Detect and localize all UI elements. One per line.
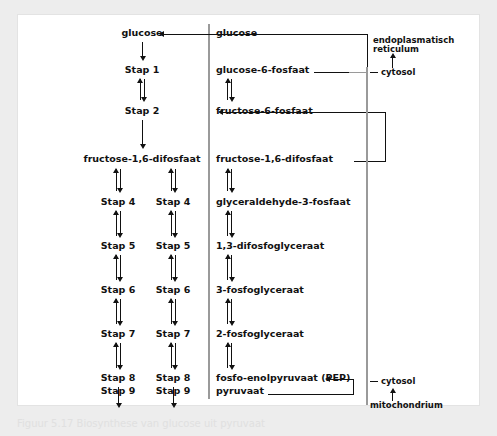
left-step-4-b: Stap 4 xyxy=(156,196,191,207)
left-step-7-a: Stap 7 xyxy=(101,328,136,339)
left-step-2: Stap 2 xyxy=(125,105,160,116)
left-step-9-a: Stap 9 xyxy=(101,385,136,396)
right-node-2-fosfoglyceraat: 2-fosfoglyceraat xyxy=(216,328,304,339)
right-node-glucose: glucose xyxy=(216,27,257,38)
left-step-8-b: Stap 8 xyxy=(156,372,191,383)
right-node-pyruvaat: pyruvaat xyxy=(216,385,264,396)
right-node-fructose-1-6-difosfaat: fructose-1,6-difosfaat xyxy=(216,153,333,164)
left-step-5-b: Stap 5 xyxy=(156,240,191,251)
right-node-1-3-difosfoglyceraat: 1,3-difosfoglyceraat xyxy=(216,240,324,251)
left-step-9-b: Stap 9 xyxy=(156,385,191,396)
right-node-3-fosfoglyceraat: 3-fosfoglyceraat xyxy=(216,284,304,295)
figure-panel: glucose Stap 1 Stap 2 fructose-1,6-difos… xyxy=(17,14,480,406)
left-step-5-a: Stap 5 xyxy=(101,240,136,251)
label-endoplasmatisch-reticulum-line2: reticulum xyxy=(373,44,419,54)
left-step-1: Stap 1 xyxy=(125,64,160,75)
cell-boundary-line-left xyxy=(208,24,210,399)
left-node-fructose-1-6-difosfaat: fructose-1,6-difosfaat xyxy=(84,153,201,164)
label-mitochondrium: mitochondrium xyxy=(370,400,443,410)
label-cytosol-bottom: cytosol xyxy=(381,376,415,386)
right-node-fructose-6-fosfaat: fructose-6-fosfaat xyxy=(216,105,313,116)
right-node-glyceraldehyde-3-fosfaat: glyceraldehyde-3-fosfaat xyxy=(216,196,350,207)
right-node-fosfo-enolpyruvaat: fosfo-enolpyruvaat (PEP) xyxy=(216,372,350,383)
figure-caption: Figuur 5.17 Biosynthese van glucose uit … xyxy=(17,414,480,434)
left-step-6-b: Stap 6 xyxy=(156,284,191,295)
left-step-8-a: Stap 8 xyxy=(101,372,136,383)
left-step-7-b: Stap 7 xyxy=(156,328,191,339)
left-step-6-a: Stap 6 xyxy=(101,284,136,295)
label-cytosol-top: cytosol xyxy=(381,67,415,77)
left-step-4-a: Stap 4 xyxy=(101,196,136,207)
right-node-glucose-6-fosfaat: glucose-6-fosfaat xyxy=(216,64,309,75)
left-node-glucose: glucose xyxy=(121,27,162,38)
